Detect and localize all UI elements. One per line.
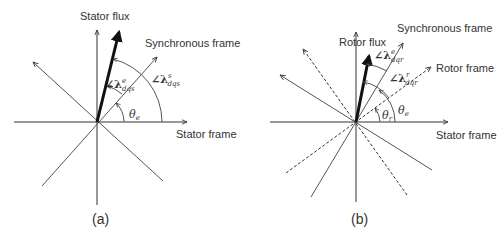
theta-e-label: θe [129, 108, 140, 122]
theta-r-label: θr [382, 109, 393, 123]
stator-frame-label: Stator frame [176, 128, 237, 140]
lambda-e-dqr-label: ∠λedqr [374, 48, 404, 64]
panel-a-caption: (a) [92, 211, 109, 227]
panel-a: Stator flux Synchronous frame Stator fra… [14, 10, 240, 227]
lambda-e-arc [366, 64, 387, 71]
lambda-r-dqr-label: ∠λrdqr [389, 71, 418, 87]
reference-frame-diagram: Stator flux Synchronous frame Stator fra… [0, 0, 502, 231]
stator-flux-label: Stator flux [80, 10, 130, 22]
panel-b-caption: (b) [351, 211, 368, 227]
synchronous-frame-label: Synchronous frame [145, 37, 240, 49]
stator-flux-vector [97, 32, 119, 122]
rotor-frame-label: Rotor frame [436, 62, 494, 74]
lambda-e-dqs-label: ∠λedqs [105, 77, 135, 93]
rotor-flux-label: Rotor flux [339, 36, 387, 48]
rotor-flux-vector [356, 56, 369, 122]
theta-e-label: θe [398, 104, 409, 118]
stator-frame-label: Stator frame [436, 129, 497, 141]
panel-b: Rotor flux Synchronous frame Rotor frame… [270, 22, 497, 227]
theta-e-arc [116, 103, 124, 122]
synchronous-frame-label: Synchronous frame [397, 22, 492, 34]
theta-r-arc [375, 108, 380, 122]
lambda-s-dqs-label: ∠λsdqs [151, 72, 180, 88]
